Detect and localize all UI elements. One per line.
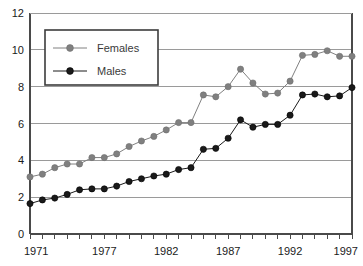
data-point-marker [39, 171, 45, 177]
data-point-marker [27, 174, 33, 180]
data-point-marker [101, 154, 107, 160]
data-point-marker [200, 146, 206, 152]
chart-legend: FemalesMales [45, 30, 158, 85]
data-point-marker [237, 117, 243, 123]
data-point-marker [114, 183, 120, 189]
data-point-marker [39, 197, 45, 203]
data-point-marker [76, 161, 82, 167]
data-point-marker [114, 151, 120, 157]
x-tick-label: 1971 [24, 245, 48, 257]
data-point-marker [299, 52, 305, 58]
x-tick-label: 1997 [334, 245, 358, 257]
y-tick-label: 6 [18, 118, 24, 130]
data-point-marker [287, 112, 293, 118]
y-tick-label: 10 [12, 44, 24, 56]
data-point-marker [89, 154, 95, 160]
data-point-marker [225, 84, 231, 90]
legend-marker-icon [67, 68, 74, 75]
data-point-marker [213, 145, 219, 151]
data-point-marker [52, 165, 58, 171]
data-point-marker [275, 90, 281, 96]
data-point-marker [126, 178, 132, 184]
data-point-marker [151, 173, 157, 179]
data-point-marker [64, 161, 70, 167]
y-tick-label: 2 [18, 191, 24, 203]
data-point-marker [151, 133, 157, 139]
x-tick-label: 1987 [216, 245, 240, 257]
data-point-marker [250, 80, 256, 86]
data-point-marker [324, 48, 330, 54]
data-point-marker [237, 66, 243, 72]
x-tick-label: 1992 [278, 245, 302, 257]
legend-marker-icon [67, 45, 74, 52]
data-point-marker [126, 143, 132, 149]
x-axis-tick-labels: 197119771982198719921997 [24, 245, 358, 257]
data-point-marker [163, 171, 169, 177]
data-point-marker [324, 94, 330, 100]
data-point-marker [76, 187, 82, 193]
data-point-marker [250, 124, 256, 130]
data-point-marker [64, 191, 70, 197]
line-chart: 024681012 197119771982198719921997 Femal… [0, 0, 363, 266]
series-line [30, 88, 352, 204]
x-tick-label: 1982 [154, 245, 178, 257]
series-males [27, 84, 355, 206]
data-point-marker [349, 84, 355, 90]
data-point-marker [89, 186, 95, 192]
data-point-marker [337, 53, 343, 59]
data-point-marker [299, 92, 305, 98]
data-point-marker [262, 121, 268, 127]
y-tick-label: 8 [18, 81, 24, 93]
data-point-marker [349, 53, 355, 59]
data-point-marker [138, 176, 144, 182]
data-point-marker [188, 119, 194, 125]
y-tick-label: 12 [12, 7, 24, 19]
data-point-marker [287, 78, 293, 84]
y-axis-tick-labels: 024681012 [12, 7, 24, 240]
data-point-marker [225, 135, 231, 141]
data-point-marker [275, 121, 281, 127]
data-point-marker [163, 127, 169, 133]
data-point-marker [200, 92, 206, 98]
data-point-marker [27, 201, 33, 207]
data-point-marker [337, 93, 343, 99]
data-point-marker [312, 51, 318, 57]
data-point-marker [176, 166, 182, 172]
y-tick-label: 0 [18, 228, 24, 240]
legend-item-label: Females [97, 42, 140, 54]
data-point-marker [138, 138, 144, 144]
data-point-marker [52, 195, 58, 201]
data-point-marker [188, 165, 194, 171]
axis-ticks [30, 234, 352, 239]
legend-item-label: Males [97, 65, 127, 77]
data-point-marker [176, 119, 182, 125]
data-point-marker [101, 186, 107, 192]
x-tick-label: 1977 [92, 245, 116, 257]
y-tick-label: 4 [18, 154, 24, 166]
data-point-marker [312, 91, 318, 97]
data-point-marker [213, 94, 219, 100]
chart-canvas: 024681012 197119771982198719921997 Femal… [0, 0, 363, 266]
data-point-marker [262, 91, 268, 97]
